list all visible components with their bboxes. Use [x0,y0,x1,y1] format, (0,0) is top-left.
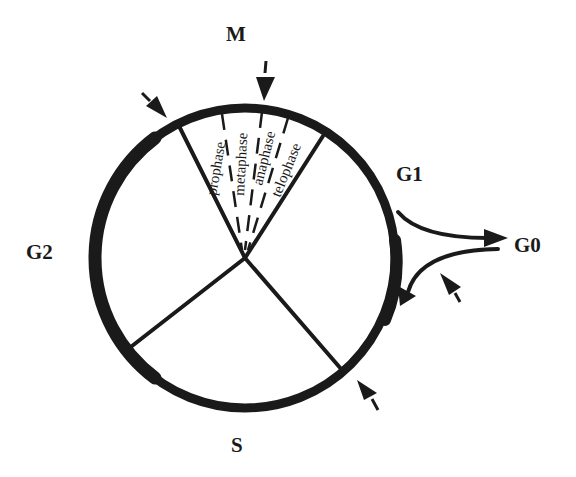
g2-s-boundary-line [132,258,245,346]
phase-labels: M G1 G0 G2 S [26,22,541,457]
checkpoint-arrow-top-icon [256,61,275,101]
phase-label-m: M [226,22,246,46]
phase-label-g1: G1 [396,162,423,186]
g1-to-g0-arrowhead-icon [484,229,508,247]
phase-label-g0: G0 [514,233,541,257]
cell-cycle-diagram: prophase metaphase anaphase telophase [0,0,576,477]
checkpoint-arrow-bottom-right-icon [357,380,378,410]
g1-to-g0-arrow [398,212,488,238]
phase-label-s: S [231,433,243,457]
checkpoint-arrow-g0-icon [440,273,461,302]
s-g1-boundary-line [245,258,342,370]
prophase-label: prophase [203,140,228,196]
metaphase-label: metaphase [231,132,250,196]
phase-label-g2: G2 [26,240,53,264]
checkpoint-arrow-top-left-icon [142,93,167,118]
checkpoint-arrows [142,61,461,410]
